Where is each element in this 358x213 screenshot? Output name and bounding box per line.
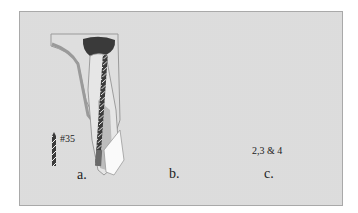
panel-a-tooth (51, 34, 124, 175)
file-size-label-a: #35 (60, 133, 75, 144)
panel-label-a: a. (77, 167, 87, 183)
panel-label-b: b. (169, 166, 180, 182)
drill-size-label-c: 2,3 & 4 (252, 145, 282, 156)
panel-label-c: c. (264, 166, 274, 182)
twisted-file-icon (52, 132, 56, 166)
